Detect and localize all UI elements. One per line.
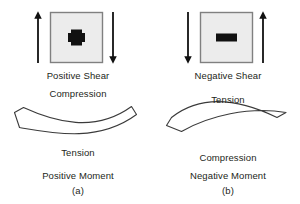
caption-a: (a) [72, 185, 84, 196]
label-negative-shear: Negative Shear [195, 70, 262, 81]
label-positive-moment: Positive Moment [42, 170, 114, 181]
caption-b: (b) [222, 185, 234, 196]
beam-outline-b [167, 101, 287, 131]
label-beam-bottom-b: Compression [199, 152, 256, 163]
beam-outline-a [15, 107, 137, 134]
label-negative-moment: Negative Moment [190, 170, 266, 181]
label-beam-top-a: Compression [49, 88, 106, 99]
label-positive-shear: Positive Shear [47, 70, 110, 81]
beam-hogging-b [167, 101, 287, 131]
minus-sign-icon [216, 34, 237, 42]
shear-and-moment-sign-convention-figure: Positive Shear Compression Tension Posit… [0, 0, 300, 204]
panel-a-shear-block [38, 12, 113, 63]
label-beam-bottom-a: Tension [61, 147, 94, 158]
label-beam-top-b: Tension [211, 94, 244, 105]
panel-b-shear-block [188, 12, 263, 63]
beam-sagging-a [15, 107, 137, 134]
